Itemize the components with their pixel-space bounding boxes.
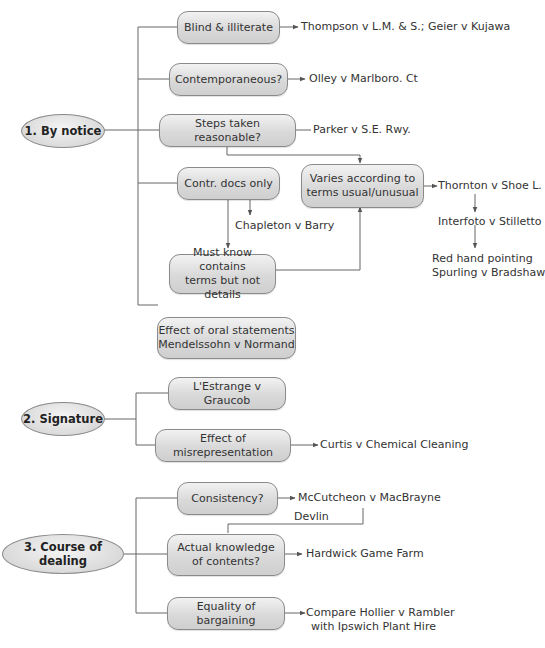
section-label: 2. Signature <box>23 412 103 426</box>
section-course-of-dealing: 3. Course of dealing <box>2 534 124 574</box>
case-parker: Parker v S.E. Rwy. <box>313 123 411 137</box>
section-signature: 2. Signature <box>21 402 105 436</box>
section-by-notice: 1. By notice <box>21 114 105 148</box>
label-devlin: Devlin <box>294 510 329 524</box>
section-label: 3. Course of dealing <box>3 540 123 568</box>
node-lestrange: L'Estrange v Graucob <box>168 377 286 410</box>
node-consistency: Consistency? <box>177 482 278 515</box>
node-contr-docs: Contr. docs only <box>177 167 280 200</box>
case-chapleton: Chapleton v Barry <box>235 219 334 233</box>
case-mccutcheon: McCutcheon v MacBrayne <box>298 491 441 505</box>
case-interfoto: Interfoto v Stilletto <box>438 215 542 229</box>
node-steps-taken: Steps taken reasonable? <box>159 114 296 147</box>
case-hollier: Compare Hollier v Ramblerwith Ipswich Pl… <box>306 606 441 634</box>
case-hardwick: Hardwick Game Farm <box>306 547 424 561</box>
node-varies: Varies according toterms usual/unusual <box>301 164 424 208</box>
node-oral-statements: Effect of oral statementsMendelssohn v N… <box>157 317 296 359</box>
node-contemporaneous: Contemporaneous? <box>169 63 288 96</box>
node-equality-bargaining: Equality of bargaining <box>167 597 285 630</box>
node-actual-knowledge: Actual knowledgeof contents? <box>167 534 285 576</box>
case-thompson: Thompson v L.M. & S.; Geier v Kujawa <box>301 20 510 34</box>
section-label: 1. By notice <box>25 124 102 138</box>
case-thornton: Thornton v Shoe L. <box>438 179 542 193</box>
case-olley: Olley v Marlboro. Ct <box>309 72 418 86</box>
node-must-know: Must know containsterms but not details <box>169 254 276 294</box>
node-blind-illiterate: Blind & illiterate <box>177 11 280 44</box>
case-curtis: Curtis v Chemical Cleaning <box>320 438 469 452</box>
case-spurling: Red hand pointingSpurling v Bradshaw <box>432 252 522 280</box>
node-misrepresentation: Effect of misrepresentation <box>155 429 291 462</box>
